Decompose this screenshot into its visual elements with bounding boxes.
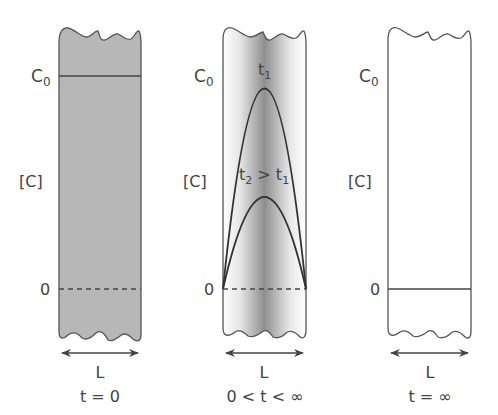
panel-equilibrium: C0 [C] 0 L t = ∞	[348, 28, 471, 406]
panel-initial: C0 [C] 0 L t = 0	[19, 28, 141, 406]
c0-label: C0	[31, 66, 51, 89]
membrane-slab	[388, 28, 471, 338]
y-axis-label: [C]	[19, 172, 43, 191]
zero-label: 0	[370, 280, 380, 299]
diffusion-figure: C0 [C] 0 L t = 0 C0 [C] 0 t1 t2 > t1 L 0…	[0, 0, 498, 415]
c0-label: C0	[194, 66, 214, 89]
membrane-slab	[59, 28, 141, 341]
zero-label: 0	[40, 280, 50, 299]
time-label: t = 0	[80, 387, 120, 406]
time-label: 0 < t < ∞	[227, 387, 304, 406]
c0-label: C0	[359, 66, 379, 89]
time-label: t = ∞	[408, 387, 451, 406]
width-label: L	[426, 363, 435, 382]
width-label: L	[260, 363, 269, 382]
width-label: L	[96, 363, 105, 382]
zero-label: 0	[204, 280, 214, 299]
y-axis-label: [C]	[348, 172, 372, 191]
panel-transient: C0 [C] 0 t1 t2 > t1 L 0 < t < ∞	[183, 28, 306, 406]
y-axis-label: [C]	[183, 172, 207, 191]
